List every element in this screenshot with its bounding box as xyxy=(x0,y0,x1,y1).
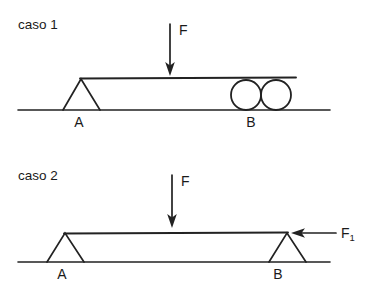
force-F1-label-subscript: 1 xyxy=(350,232,355,243)
force-F1-label: F1 xyxy=(341,225,355,243)
roller-circle-icon-2 xyxy=(261,80,291,110)
beam-case1 xyxy=(80,78,296,79)
statics-diagram: caso 1 F A B xyxy=(0,0,369,297)
beam-diagram-canvas: caso 1 F A B xyxy=(0,0,369,297)
case-2-force-F: F xyxy=(167,173,189,228)
triangle-support-icon xyxy=(269,233,306,262)
support-B-label-case1: B xyxy=(246,114,255,130)
support-A-label-case1: A xyxy=(74,114,84,130)
support-A-case1: A xyxy=(63,79,100,130)
case-1-group: caso 1 F A B xyxy=(18,17,330,130)
triangle-support-icon xyxy=(63,79,100,110)
case-2-force-F1: F1 xyxy=(291,225,355,243)
force-F-label-case1: F xyxy=(179,22,188,38)
support-B-case1: B xyxy=(231,80,291,130)
force-F-label-case2: F xyxy=(181,173,190,189)
roller-circle-icon-1 xyxy=(231,80,261,110)
case-2-title: caso 2 xyxy=(18,168,58,183)
case-2-group: caso 2 F A B xyxy=(18,168,355,282)
force-F1-label-base: F xyxy=(341,225,350,241)
support-A-label-case2: A xyxy=(57,266,67,282)
support-B-case2: B xyxy=(269,233,306,282)
beam-case2 xyxy=(64,233,288,234)
support-B-label-case2: B xyxy=(273,266,282,282)
triangle-support-icon xyxy=(47,233,84,262)
case-1-title: caso 1 xyxy=(18,17,58,32)
case-1-force-F: F xyxy=(165,22,187,76)
support-A-case2: A xyxy=(47,233,84,282)
